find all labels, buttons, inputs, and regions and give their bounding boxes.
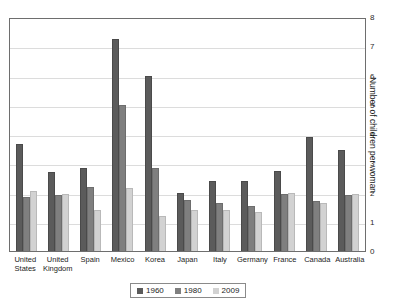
bar (216, 203, 223, 251)
bar (274, 171, 281, 251)
bar (159, 216, 166, 251)
x-axis-tick-label-line: Germany (236, 255, 268, 264)
bar (288, 193, 295, 252)
bar (320, 203, 327, 251)
legend-label: 1980 (184, 286, 202, 295)
x-axis-tick-label: Mexico (106, 255, 138, 273)
bar-group-bars (236, 19, 268, 251)
bar (152, 168, 159, 251)
bar-groups (10, 19, 365, 251)
bar (184, 200, 191, 251)
legend-label: 1960 (146, 286, 164, 295)
bar (55, 195, 62, 251)
chart-screenshot: 012345678 Number of children per woman U… (0, 0, 413, 301)
legend-swatch (137, 288, 143, 294)
bar-group (236, 19, 268, 251)
bar-group (10, 19, 42, 251)
bar-group (300, 19, 332, 251)
legend-item: 2009 (213, 286, 240, 295)
legend-item: 1960 (137, 286, 164, 295)
bar (248, 206, 255, 251)
x-axis-tick-label: Canada (301, 255, 333, 273)
bar-group (333, 19, 365, 251)
bar-group-bars (107, 19, 139, 251)
bar (209, 181, 216, 251)
bar (191, 210, 198, 251)
x-axis-tick-labels: UnitedStatesUnitedKingdomSpainMexicoKore… (9, 255, 366, 273)
y-axis-title: Number of children per woman (367, 18, 379, 252)
bar (94, 210, 101, 251)
x-axis-tick-label-line: United (41, 255, 73, 264)
bar-group-bars (10, 19, 42, 251)
bar (16, 144, 23, 251)
bar (338, 150, 345, 251)
x-axis-tick-label-line: Japan (171, 255, 203, 264)
x-axis-tick-label-line: United (9, 255, 41, 264)
x-axis-tick-label-line: Australia (334, 255, 366, 264)
bar (241, 181, 248, 251)
x-axis-tick-label: Germany (236, 255, 268, 273)
plot-area (9, 18, 366, 252)
x-axis-tick-label-line: Mexico (106, 255, 138, 264)
x-axis-tick-label-line: Korea (139, 255, 171, 264)
bar-group (107, 19, 139, 251)
x-axis-tick-label-line: Canada (301, 255, 333, 264)
x-axis-tick-label: UnitedStates (9, 255, 41, 273)
x-axis-tick-label-line: States (9, 264, 41, 273)
bar (62, 194, 69, 251)
bar (80, 168, 87, 251)
bar (48, 172, 55, 251)
x-axis-tick-label: Spain (74, 255, 106, 273)
bar (313, 201, 320, 251)
x-axis-tick-label: Korea (139, 255, 171, 273)
bar (87, 187, 94, 251)
x-axis-tick-label: Japan (171, 255, 203, 273)
bar-group-bars (333, 19, 365, 251)
x-axis-tick-label-line: Spain (74, 255, 106, 264)
chart-legend: 196019802009 (130, 283, 246, 298)
legend-swatch (213, 288, 219, 294)
bar-group-bars (300, 19, 332, 251)
bar (306, 137, 313, 251)
bar-group-bars (42, 19, 74, 251)
bar (23, 197, 30, 251)
bar (352, 194, 359, 251)
legend-swatch (175, 288, 181, 294)
bar-group (268, 19, 300, 251)
bar (112, 39, 119, 251)
bar (345, 195, 352, 251)
bar-group-bars (268, 19, 300, 251)
bar (223, 210, 230, 251)
bar-group (75, 19, 107, 251)
bar (177, 193, 184, 252)
bar-group-bars (139, 19, 171, 251)
bar (30, 191, 37, 251)
x-axis-tick-label: Australia (334, 255, 366, 273)
clipped-top-text (0, 0, 413, 9)
bar-group (139, 19, 171, 251)
x-axis-tick-label-line: Italy (204, 255, 236, 264)
bar (145, 76, 152, 252)
bar-group (171, 19, 203, 251)
bar (255, 212, 262, 251)
x-axis-tick-label-line: Kingdom (41, 264, 73, 273)
x-axis-tick-label-line: France (269, 255, 301, 264)
legend-label: 2009 (222, 286, 240, 295)
bar-group (204, 19, 236, 251)
bar-group-bars (75, 19, 107, 251)
x-axis-tick-label: Italy (204, 255, 236, 273)
legend-item: 1980 (175, 286, 202, 295)
bar (119, 105, 126, 251)
bar-group-bars (171, 19, 203, 251)
bar (126, 188, 133, 251)
x-axis-tick-label: UnitedKingdom (41, 255, 73, 273)
bar-group (42, 19, 74, 251)
bar-group-bars (204, 19, 236, 251)
bar (281, 194, 288, 251)
x-axis-tick-label: France (269, 255, 301, 273)
